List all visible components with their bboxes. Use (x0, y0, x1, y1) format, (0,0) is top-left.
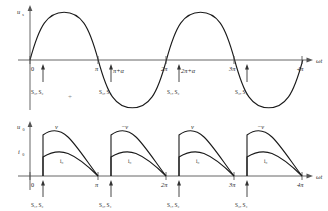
upper-firing-angle-3: 2π+α (181, 67, 196, 74)
lower-firing-switches-1: S₁, S₂ (31, 202, 44, 208)
lower-y-axis-label-current-sub: 0 (22, 152, 24, 157)
lower-firing-switches-4: S₃, S₄ (235, 202, 248, 208)
output-voltage-label-2: −v (121, 123, 128, 130)
lower-xtick-label-4pi: 4π (297, 181, 304, 188)
lower-firing-mark-4: S₃, S₄ (235, 180, 249, 208)
upper-firing-angle-2: π+α (113, 67, 125, 74)
lower-xtick-label-0: 0 (31, 181, 34, 188)
upper-firing-switches-1: S₃, S₂ (31, 89, 44, 95)
lower-firing-mark-2: S₃, S₄ (99, 180, 113, 208)
output-pulse-group-4: −v i₀ S₃, S₄ (235, 123, 302, 208)
upper-y-axis-label: u (17, 8, 20, 15)
lower-firing-switches-3: S₁, S₂ (167, 202, 180, 208)
lower-y-axis-label-voltage: u (17, 123, 20, 130)
lower-x-axis-label: ωt (316, 173, 323, 180)
upper-firing-switches-2: S₃, S₄ (99, 89, 112, 95)
lower-xtick-label-2pi: 2π (161, 181, 168, 188)
upper-firing-switches-3: S₁, S₂ (167, 89, 180, 95)
figure-svg: u s ωt 0 π 2π 3π 4π S₃, S₂ π+α S₃, S₄ (0, 0, 328, 211)
waveform-figure: u s ωt 0 π 2π 3π 4π S₃, S₂ π+α S₃, S₄ (0, 0, 328, 211)
lower-panel: u 0 i 0 ωt 0 π 2π 3π 4π v i₀ S₁, S₂ (17, 121, 323, 208)
lower-y-axis-label-current: i (18, 148, 20, 155)
upper-xtick-label-3pi: 3π (228, 65, 236, 72)
lower-y-axis-arrowhead (28, 121, 33, 127)
output-pulse-group-2: −v i₀ S₃, S₄ (99, 123, 166, 208)
upper-xtick-label-2pi: 2π (161, 65, 168, 72)
lower-firing-switches-2: S₃, S₄ (99, 202, 112, 208)
lower-firing-mark-3: S₁, S₂ (167, 180, 181, 208)
upper-xtick-label-0: 0 (31, 65, 34, 72)
upper-x-axis-label: ωt (316, 57, 323, 64)
lower-x-axis-arrowhead (307, 173, 314, 178)
output-pulse-group-1: v i₀ S₁, S₂ (31, 123, 98, 208)
lower-xtick-label-pi: π (95, 181, 99, 188)
stray-plus-mark: + (68, 93, 72, 101)
output-voltage-label-3: v (191, 123, 194, 130)
lower-y-axis-label-voltage-sub: 0 (22, 127, 24, 132)
upper-xtick-label-pi: π (95, 65, 99, 72)
output-voltage-label-4: −v (257, 123, 264, 130)
upper-y-axis-label-sub: s (22, 12, 24, 17)
upper-x-axis-arrowhead (307, 57, 314, 62)
upper-xtick-label-4pi: 4π (297, 65, 304, 72)
output-current-label-2: i₀ (128, 158, 131, 164)
output-voltage-label-1: v (55, 123, 58, 130)
output-current-label-3: i₀ (196, 158, 199, 164)
upper-panel: u s ωt 0 π 2π 3π 4π S₃, S₂ π+α S₃, S₄ (17, 5, 323, 110)
output-pulse-group-3: v i₀ S₁, S₂ (167, 123, 234, 208)
output-current-label-4: i₀ (264, 158, 267, 164)
upper-y-axis-arrowhead (28, 5, 33, 11)
output-current-label-1: i₀ (60, 158, 63, 164)
lower-xtick-label-3pi: 3π (228, 181, 236, 188)
upper-firing-mark-3: 2π+α S₁, S₂ (167, 64, 196, 95)
upper-firing-mark-2: π+α S₃, S₄ (99, 64, 125, 95)
upper-firing-switches-4: S₃, S₄ (235, 89, 248, 95)
